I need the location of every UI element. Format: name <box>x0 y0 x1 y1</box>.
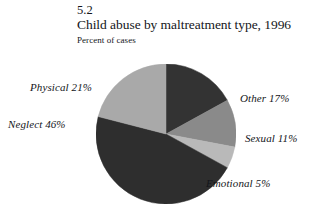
pie-label-emotional: Emotional 5% <box>206 177 270 190</box>
pie-label-physical: Physical 21% <box>30 81 92 94</box>
figure-container: 5.2 Child abuse by maltreatment type, 19… <box>0 0 320 220</box>
figure-number: 5.2 <box>77 3 317 17</box>
pie-label-other: Other 17% <box>240 92 289 105</box>
figure-title-block: 5.2 Child abuse by maltreatment type, 19… <box>77 3 317 46</box>
pie-label-sexual: Sexual 11% <box>245 132 297 145</box>
figure-title: Child abuse by maltreatment type, 1996 <box>77 17 317 33</box>
figure-subtitle: Percent of cases <box>77 34 317 46</box>
pie-label-neglect: Neglect 46% <box>8 118 66 131</box>
